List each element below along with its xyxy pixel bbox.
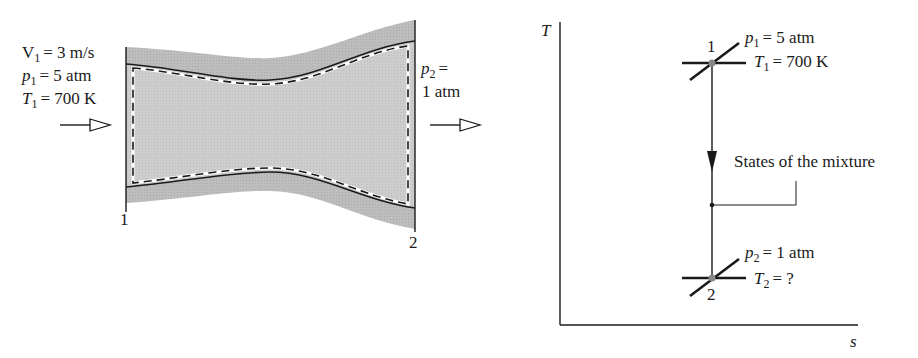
nozzle — [126, 20, 415, 232]
s-axis-label: s — [850, 332, 857, 351]
inlet-pressure-label: p1= 5 atm — [21, 66, 92, 88]
ts-diagram: T s 1 p1= 5 atm T1= 700 K States of the … — [541, 21, 875, 351]
state-2-temperature: T2= ? — [754, 269, 794, 291]
outlet-pressure-value: 1 atm — [422, 82, 460, 101]
outlet-pressure-label: p2= — [420, 59, 448, 81]
mixture-states-annotation: States of the mixture — [734, 152, 875, 171]
inlet-velocity-label: V1= 3 m/s — [22, 43, 94, 65]
state-2-label: 2 — [707, 285, 716, 304]
annotation-leader-line — [712, 181, 796, 205]
state-1-temperature: T1= 700 K — [754, 52, 829, 74]
station-2-label: 2 — [409, 233, 418, 252]
diagram-canvas: V1= 3 m/s p1= 5 atm T1= 700 K p2= 1 atm … — [0, 0, 918, 358]
mixture-state-point — [710, 203, 715, 208]
state-1-label: 1 — [707, 37, 716, 56]
outlet-flow-arrow-icon — [430, 119, 480, 131]
station-1-label: 1 — [120, 210, 129, 229]
process-direction-arrow-icon — [707, 151, 717, 172]
t-axis-label: T — [541, 21, 552, 40]
inlet-flow-arrow-icon — [60, 119, 110, 131]
state-1-pressure: p1= 5 atm — [744, 28, 815, 50]
state-2-pressure: p2= 1 atm — [744, 243, 815, 265]
inlet-temperature-label: T1= 700 K — [22, 89, 97, 111]
